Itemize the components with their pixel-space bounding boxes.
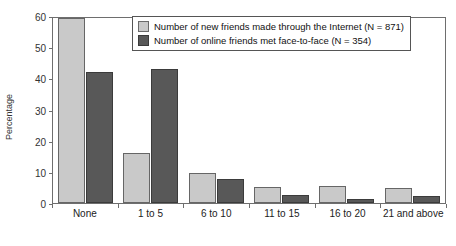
- bar: [123, 153, 150, 203]
- bar: [347, 199, 374, 203]
- legend-swatch-icon: [138, 21, 149, 32]
- y-axis-tick-mark: [49, 111, 53, 112]
- bar-group: [53, 18, 118, 203]
- y-axis-tick-mark: [49, 48, 53, 49]
- x-axis-tick-label: 16 to 20: [315, 208, 381, 228]
- y-axis-tick-label: 10: [18, 167, 46, 178]
- y-axis-tick-label: 0: [18, 199, 46, 210]
- y-axis-tick-label: 30: [18, 105, 46, 116]
- bar: [254, 187, 281, 203]
- legend-label: Number of online friends met face-to-fac…: [154, 35, 371, 46]
- x-axis-tick-labels: None1 to 56 to 1011 to 1516 to 2021 and …: [52, 208, 446, 228]
- y-axis-tick-mark: [49, 173, 53, 174]
- bar: [217, 179, 244, 203]
- legend-swatch-icon: [138, 35, 149, 46]
- y-axis-tick-mark: [49, 142, 53, 143]
- y-axis-tick-label: 20: [18, 136, 46, 147]
- x-axis-tick-label: 1 to 5: [118, 208, 184, 228]
- chart-legend: Number of new friends made through the I…: [132, 16, 411, 51]
- x-axis-tick-label: 6 to 10: [183, 208, 249, 228]
- y-axis-tick-mark: [49, 17, 53, 18]
- y-axis-tick-label: 40: [18, 74, 46, 85]
- y-axis-tick-mark: [49, 79, 53, 80]
- bar: [413, 196, 440, 203]
- legend-item: Number of new friends made through the I…: [138, 21, 404, 32]
- y-axis-tick-label: 60: [18, 12, 46, 23]
- bar: [385, 188, 412, 203]
- bar: [189, 173, 216, 203]
- bar: [86, 72, 113, 203]
- y-axis-title-text: Percentage: [4, 94, 14, 140]
- x-axis-tick-label: 21 and above: [380, 208, 446, 228]
- bar: [151, 69, 178, 203]
- bar: [282, 195, 309, 203]
- bar: [58, 18, 85, 203]
- x-axis-tick-label: 11 to 15: [249, 208, 315, 228]
- x-axis-tick-label: None: [52, 208, 118, 228]
- bar-chart: Percentage 0102030405060 None1 to 56 to …: [0, 0, 456, 246]
- y-axis-tick-label: 50: [18, 43, 46, 54]
- y-axis-tick-labels: 0102030405060: [18, 0, 46, 246]
- x-axis-tick-mark: [446, 204, 447, 208]
- legend-label: Number of new friends made through the I…: [154, 21, 404, 32]
- legend-item: Number of online friends met face-to-fac…: [138, 35, 404, 46]
- y-axis-title: Percentage: [2, 62, 16, 172]
- bar: [319, 186, 346, 203]
